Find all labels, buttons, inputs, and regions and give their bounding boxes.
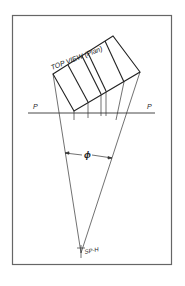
picture-plane-label-left: P [33,103,38,110]
perspective-diagram: TOP VIEW (Plan) P P ϕ SP-H [0,0,185,286]
picture-plane-label-right: P [147,103,152,110]
angle-label: ϕ [84,150,91,160]
